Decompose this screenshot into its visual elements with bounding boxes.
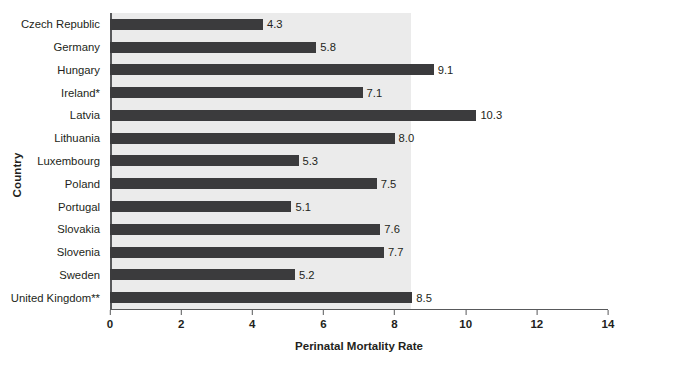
bar-row: 7.7 bbox=[110, 241, 608, 264]
bar-value-label: 7.7 bbox=[388, 246, 404, 258]
x-axis-tick-mark bbox=[252, 310, 253, 315]
plot-area: 4.35.89.17.110.38.05.37.55.17.67.75.28.5 bbox=[110, 13, 608, 309]
perinatal-mortality-bar-chart: Country Czech RepublicGermanyHungaryIrel… bbox=[0, 0, 674, 368]
bar bbox=[110, 269, 295, 280]
bar bbox=[110, 19, 263, 30]
bar-row: 9.1 bbox=[110, 59, 608, 82]
bar-value-label: 4.3 bbox=[267, 18, 283, 30]
x-axis-tick: 6 bbox=[320, 310, 326, 330]
x-axis-tick-mark bbox=[536, 310, 537, 315]
category-label: Latvia bbox=[0, 104, 105, 127]
bar bbox=[110, 133, 395, 144]
x-axis-tick: 4 bbox=[249, 310, 255, 330]
bar-value-label: 5.3 bbox=[303, 155, 319, 167]
bar bbox=[110, 178, 377, 189]
x-axis-tick-label: 14 bbox=[602, 318, 615, 330]
category-axis-labels: Czech RepublicGermanyHungaryIreland*Latv… bbox=[0, 13, 105, 309]
bar-row: 5.3 bbox=[110, 150, 608, 173]
bar-row: 8.5 bbox=[110, 286, 608, 309]
x-axis-tick: 10 bbox=[459, 310, 472, 330]
x-axis-tick: 8 bbox=[391, 310, 397, 330]
bar-row: 7.1 bbox=[110, 81, 608, 104]
x-axis-tick-mark bbox=[465, 310, 466, 315]
x-axis-tick-mark bbox=[323, 310, 324, 315]
x-axis-tick-mark bbox=[607, 310, 608, 315]
bar-row: 7.5 bbox=[110, 172, 608, 195]
category-label: Slovakia bbox=[0, 218, 105, 241]
x-axis-tick-label: 0 bbox=[107, 318, 113, 330]
bar bbox=[110, 201, 291, 212]
bar-value-label: 7.5 bbox=[381, 178, 397, 190]
x-axis-tick-label: 8 bbox=[391, 318, 397, 330]
bar-row: 7.6 bbox=[110, 218, 608, 241]
bar bbox=[110, 247, 384, 258]
bar-value-label: 5.8 bbox=[320, 41, 336, 53]
category-label: Poland bbox=[0, 172, 105, 195]
x-axis-tick: 2 bbox=[178, 310, 184, 330]
bar-value-label: 5.2 bbox=[299, 269, 315, 281]
x-axis-tick-mark bbox=[394, 310, 395, 315]
category-label: United Kingdom** bbox=[0, 286, 105, 309]
x-axis-tick-mark bbox=[181, 310, 182, 315]
bar-row: 5.2 bbox=[110, 263, 608, 286]
category-label: Hungary bbox=[0, 59, 105, 82]
bar bbox=[110, 64, 434, 75]
category-label: Lithuania bbox=[0, 127, 105, 150]
bar bbox=[110, 87, 363, 98]
x-axis-ticks: 02468101214 bbox=[110, 310, 608, 334]
category-label: Luxembourg bbox=[0, 150, 105, 173]
category-label: Ireland* bbox=[0, 81, 105, 104]
x-axis-tick-label: 2 bbox=[178, 318, 184, 330]
bar bbox=[110, 155, 299, 166]
bar-row: 10.3 bbox=[110, 104, 608, 127]
x-axis-tick-label: 4 bbox=[249, 318, 255, 330]
bar-row: 4.3 bbox=[110, 13, 608, 36]
bar bbox=[110, 224, 380, 235]
x-axis-tick-label: 10 bbox=[459, 318, 472, 330]
bar-row: 5.1 bbox=[110, 195, 608, 218]
category-label: Sweden bbox=[0, 263, 105, 286]
category-label: Czech Republic bbox=[0, 13, 105, 36]
bar bbox=[110, 292, 412, 303]
bar-value-label: 9.1 bbox=[438, 64, 454, 76]
bar-value-label: 8.5 bbox=[416, 292, 432, 304]
x-axis-tick: 14 bbox=[602, 310, 615, 330]
bar bbox=[110, 42, 316, 53]
x-axis-title: Perinatal Mortality Rate bbox=[110, 340, 608, 352]
bar-value-label: 10.3 bbox=[480, 109, 502, 121]
x-axis-tick-label: 6 bbox=[320, 318, 326, 330]
bar bbox=[110, 110, 476, 121]
bar-value-label: 7.1 bbox=[367, 87, 383, 99]
x-axis-tick-mark bbox=[109, 310, 110, 315]
bar-series: 4.35.89.17.110.38.05.37.55.17.67.75.28.5 bbox=[110, 13, 608, 309]
bar-row: 8.0 bbox=[110, 127, 608, 150]
x-axis-tick: 0 bbox=[107, 310, 113, 330]
category-label: Portugal bbox=[0, 195, 105, 218]
x-axis-tick: 12 bbox=[530, 310, 543, 330]
bar-value-label: 8.0 bbox=[399, 132, 415, 144]
bar-value-label: 5.1 bbox=[295, 201, 311, 213]
x-axis-tick-label: 12 bbox=[530, 318, 543, 330]
category-label: Slovenia bbox=[0, 241, 105, 264]
bar-value-label: 7.6 bbox=[384, 223, 400, 235]
bar-row: 5.8 bbox=[110, 36, 608, 59]
category-label: Germany bbox=[0, 36, 105, 59]
